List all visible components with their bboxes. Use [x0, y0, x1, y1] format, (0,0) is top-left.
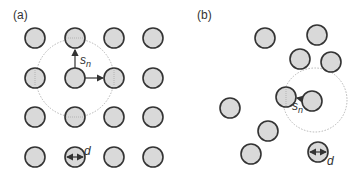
particle [143, 28, 163, 48]
particle [143, 147, 163, 167]
panel-a: (a) sn [13, 8, 163, 167]
particle [104, 107, 124, 127]
particle-grid [25, 28, 163, 167]
particle-center [302, 91, 322, 111]
spacing-label-a: sn [80, 53, 91, 69]
particle [290, 49, 310, 69]
particle [104, 28, 124, 48]
particle [25, 147, 45, 167]
diameter-label-a: d [84, 144, 91, 158]
particle [307, 25, 327, 45]
particle [241, 144, 261, 164]
panel-a-label: (a) [13, 8, 28, 22]
panel-b-label: (b) [197, 8, 212, 22]
particle [104, 147, 124, 167]
particle [321, 52, 341, 72]
particle [220, 98, 240, 118]
particle [25, 28, 45, 48]
particle [258, 121, 278, 141]
diagram-canvas: (a) sn [0, 0, 355, 176]
panel-b: (b) sn d [197, 8, 347, 168]
diameter-label-b: d [327, 154, 334, 168]
particle-center [65, 68, 85, 88]
particle [255, 28, 275, 48]
particle [143, 68, 163, 88]
particle [143, 107, 163, 127]
particle-scatter [220, 25, 341, 164]
particle [25, 107, 45, 127]
